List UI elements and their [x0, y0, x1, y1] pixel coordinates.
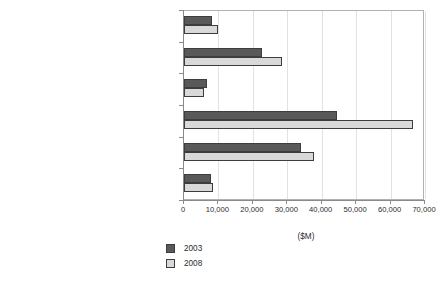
x-tick-label: 10,000 [206, 205, 229, 214]
legend-item-2008: 2008 [166, 256, 202, 271]
bar-group [184, 74, 425, 106]
x-tick-mark [183, 200, 184, 204]
y-tick-mark [179, 42, 183, 43]
bar-2008 [184, 25, 218, 34]
bar-2008 [184, 183, 213, 192]
legend-label-2008: 2008 [184, 259, 202, 269]
x-tick-label: 50,000 [344, 205, 367, 214]
bar-2003 [184, 111, 337, 120]
x-axis-title: ($M) [266, 232, 346, 241]
bar-2003 [184, 143, 301, 152]
bar-group [184, 138, 425, 170]
bar-2008 [184, 120, 413, 129]
bar-2008 [184, 88, 204, 97]
bar-chart: IS ConsultingSystem IntegrationCustom Ap… [0, 0, 448, 283]
bar-group [184, 169, 425, 201]
bar-group [184, 106, 425, 138]
y-tick-mark [179, 168, 183, 169]
x-tick-label: 70,000 [412, 205, 435, 214]
legend-item-2003: 2003 [166, 241, 202, 256]
bar-group [184, 43, 425, 75]
x-tick-label: 60,000 [378, 205, 401, 214]
gridline [425, 11, 426, 199]
x-tick-mark [217, 200, 218, 204]
bar-2003 [184, 48, 262, 57]
legend-swatch-2008-icon [166, 259, 175, 268]
legend-label-2003: 2003 [184, 244, 202, 254]
x-tick-mark [424, 200, 425, 204]
x-tick-label: 0 [181, 205, 185, 214]
legend: 2003 2008 [166, 241, 202, 271]
bar-2003 [184, 16, 212, 25]
x-tick-mark [252, 200, 253, 204]
x-tick-label: 30,000 [275, 205, 298, 214]
x-tick-mark [390, 200, 391, 204]
bar-group [184, 11, 425, 43]
bar-2008 [184, 152, 314, 161]
plot-area [183, 10, 424, 200]
y-tick-mark [179, 10, 183, 11]
x-tick-mark [286, 200, 287, 204]
x-tick-label: 40,000 [309, 205, 332, 214]
x-tick-label: 20,000 [240, 205, 263, 214]
y-tick-mark [179, 73, 183, 74]
y-tick-mark [179, 105, 183, 106]
x-tick-mark [321, 200, 322, 204]
bar-2003 [184, 79, 207, 88]
bar-2003 [184, 174, 211, 183]
bar-2008 [184, 57, 282, 66]
y-tick-mark [179, 137, 183, 138]
y-axis-line [183, 10, 184, 201]
legend-swatch-2003-icon [166, 244, 175, 253]
x-tick-mark [355, 200, 356, 204]
